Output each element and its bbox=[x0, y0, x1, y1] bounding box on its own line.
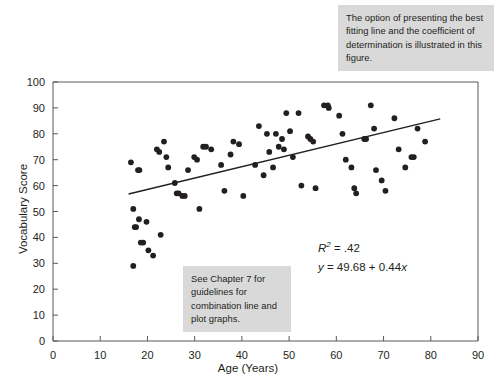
data-point bbox=[264, 131, 270, 137]
data-point bbox=[144, 219, 150, 225]
data-point bbox=[270, 165, 276, 171]
data-point bbox=[343, 157, 349, 163]
data-point bbox=[336, 113, 342, 119]
data-point bbox=[287, 128, 293, 134]
data-point bbox=[396, 146, 402, 152]
x-tick-label-40: 40 bbox=[236, 350, 248, 361]
data-point bbox=[276, 144, 282, 150]
r-squared-annotation: R2 = .42 bbox=[318, 240, 360, 254]
r-squared-value: = .42 bbox=[331, 242, 360, 254]
x-axis-title: Age (Years) bbox=[0, 362, 496, 374]
data-point bbox=[266, 149, 272, 155]
data-point bbox=[379, 178, 385, 184]
y-tick-label-0: 0 bbox=[8, 336, 45, 347]
data-point bbox=[411, 154, 417, 160]
x-tick-label-50: 50 bbox=[283, 350, 295, 361]
data-point bbox=[156, 149, 162, 155]
data-point bbox=[128, 159, 134, 165]
y-tick-label-90: 90 bbox=[8, 102, 45, 113]
y-tick-label-80: 80 bbox=[8, 128, 45, 139]
data-point bbox=[296, 110, 302, 116]
data-point bbox=[261, 172, 267, 178]
data-point bbox=[218, 162, 224, 168]
data-point bbox=[383, 188, 389, 194]
data-point bbox=[208, 146, 214, 152]
data-point bbox=[165, 165, 171, 171]
callout-top-note: The option of presenting the best fittin… bbox=[338, 5, 494, 71]
data-point bbox=[196, 206, 202, 212]
data-point bbox=[371, 126, 377, 132]
data-point bbox=[140, 240, 146, 246]
data-point bbox=[136, 216, 142, 222]
x-tick-label-30: 30 bbox=[189, 350, 201, 361]
equation-x-symbol: x bbox=[401, 261, 407, 273]
data-point bbox=[402, 165, 408, 171]
data-point bbox=[158, 232, 164, 238]
data-point bbox=[422, 139, 428, 145]
data-point bbox=[368, 102, 374, 108]
data-point bbox=[150, 253, 156, 259]
y-tick-label-20: 20 bbox=[8, 284, 45, 295]
x-tick-label-60: 60 bbox=[330, 350, 342, 361]
data-point bbox=[326, 105, 332, 111]
scatter-plot-figure: 0102030405060708090100 01020304050607080… bbox=[0, 0, 496, 380]
data-point bbox=[351, 185, 357, 191]
data-point bbox=[182, 193, 188, 199]
data-point bbox=[281, 146, 287, 152]
data-point bbox=[415, 126, 421, 132]
data-point bbox=[240, 193, 246, 199]
data-point bbox=[228, 152, 234, 158]
data-point bbox=[194, 157, 200, 163]
data-point bbox=[130, 206, 136, 212]
x-tick-label-90: 90 bbox=[472, 350, 484, 361]
data-point bbox=[298, 183, 304, 189]
x-tick-label-0: 0 bbox=[50, 350, 56, 361]
regression-equation-annotation: y = 49.68 + 0.44x bbox=[318, 261, 407, 273]
data-point bbox=[256, 123, 262, 129]
data-point bbox=[340, 131, 346, 137]
data-point bbox=[130, 263, 136, 269]
y-tick-label-100: 100 bbox=[8, 77, 45, 88]
data-point bbox=[203, 144, 209, 150]
data-point bbox=[373, 167, 379, 173]
equation-body: = 49.68 + 0.44 bbox=[324, 261, 401, 273]
data-point bbox=[145, 247, 151, 253]
data-point bbox=[230, 139, 236, 145]
data-point bbox=[313, 185, 319, 191]
x-tick-label-80: 80 bbox=[425, 350, 437, 361]
x-tick-label-20: 20 bbox=[141, 350, 153, 361]
data-point bbox=[133, 224, 139, 230]
data-points bbox=[128, 102, 428, 268]
x-tick-label-10: 10 bbox=[94, 350, 106, 361]
best-fit-line bbox=[129, 119, 441, 194]
data-point bbox=[273, 131, 279, 137]
data-point bbox=[163, 154, 169, 160]
callout-bottom-note: See Chapter 7 for guidelines for combina… bbox=[183, 266, 291, 332]
data-point bbox=[283, 110, 289, 116]
x-tick-label-70: 70 bbox=[377, 350, 389, 361]
data-point bbox=[279, 136, 285, 142]
data-point bbox=[392, 115, 398, 121]
data-point bbox=[349, 165, 355, 171]
data-point bbox=[236, 141, 242, 147]
data-point bbox=[353, 190, 359, 196]
data-point bbox=[161, 139, 167, 145]
data-point bbox=[185, 167, 191, 173]
data-point bbox=[137, 167, 143, 173]
y-axis-title: Vocabulary Score bbox=[17, 139, 29, 279]
data-point bbox=[310, 139, 316, 145]
data-point bbox=[222, 188, 228, 194]
y-tick-label-10: 10 bbox=[8, 310, 45, 321]
